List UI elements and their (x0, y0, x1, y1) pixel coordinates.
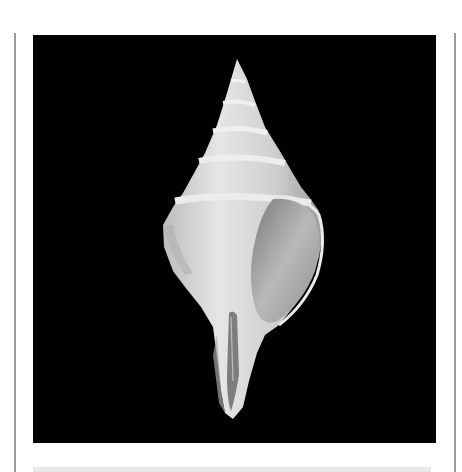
caption-bar (33, 467, 431, 472)
shell-illustration (33, 35, 436, 443)
left-margin-rule (14, 33, 16, 472)
shell-photo (33, 35, 436, 443)
right-margin-rule (454, 33, 456, 472)
